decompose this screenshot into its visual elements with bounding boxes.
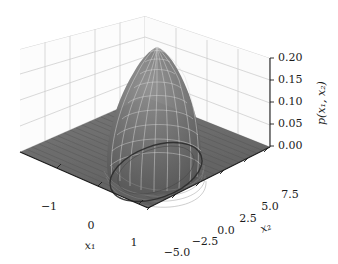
y-tick-labels: −5.0 −2.5 0.0 2.5 5.0 7.5	[164, 188, 299, 259]
y-tick-label: −2.5	[192, 235, 219, 248]
z-tick-labels: 0.00 0.05 0.10 0.15 0.20	[278, 51, 303, 152]
x-tick-label: 1	[131, 236, 138, 249]
y-tick-label: 5.0	[261, 200, 279, 213]
y-tick-label: 7.5	[281, 188, 299, 201]
z-axis-ticks	[270, 58, 274, 146]
y-tick-label: 2.5	[239, 212, 257, 225]
z-axis-label: p(x₁, x₂)	[315, 81, 328, 125]
x-tick-label: 0	[88, 219, 95, 232]
figure-canvas: −1 0 1 −5.0 −2.5 0.0 2.5 5.0 7.5 0.00 0.…	[0, 0, 338, 264]
x-tick-label: −1	[41, 200, 57, 213]
z-tick-label: 0.10	[278, 95, 303, 108]
surface-plot-3d: −1 0 1 −5.0 −2.5 0.0 2.5 5.0 7.5 0.00 0.…	[0, 0, 338, 264]
x-axis-label: x₁	[84, 238, 96, 252]
y-tick-label: −5.0	[164, 246, 191, 259]
z-tick-label: 0.00	[278, 139, 303, 152]
z-tick-label: 0.15	[278, 73, 303, 86]
y-axis-label: x₂	[258, 219, 273, 235]
z-tick-label: 0.05	[278, 117, 303, 130]
z-tick-label: 0.20	[278, 51, 303, 64]
y-tick-label: 0.0	[217, 224, 235, 237]
